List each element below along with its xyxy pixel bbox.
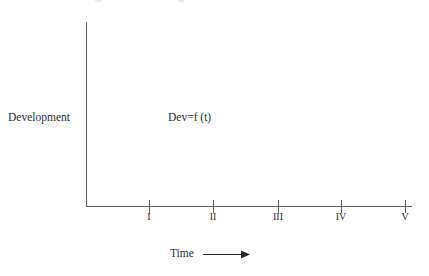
x-axis-tick-label-4: IV [336,212,347,222]
arrow-right-icon [203,251,250,259]
plot-annotation-formula: Dev=f (t) [168,112,211,124]
x-axis-tick-label-5: V [401,212,408,222]
axis-diagram-canvas [0,0,429,276]
x-axis-title: Time [170,248,194,260]
x-axis-tick-label-3: III [273,212,283,222]
figure-container: Development Dev=f (t) Time I II III IV V [0,0,429,276]
y-axis-label: Development [8,112,70,124]
x-axis-tick-label-2: II [210,212,217,222]
x-axis-tick-label-1: I [147,212,150,222]
